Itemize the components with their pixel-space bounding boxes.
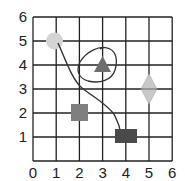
- x-tick-3: 3: [98, 164, 106, 181]
- x-axis-labels: 0 1 2 3 4 5 6: [29, 164, 177, 181]
- x-tick-6: 6: [168, 164, 176, 181]
- x-tick-5: 5: [145, 164, 153, 181]
- y-tick-1: 1: [19, 128, 27, 145]
- triangle-shape: [94, 56, 111, 72]
- y-tick-3: 3: [19, 80, 27, 97]
- x-tick-4: 4: [122, 164, 130, 181]
- y-axis-labels: 1 2 3 4 5 6: [19, 8, 27, 145]
- x-tick-2: 2: [75, 164, 83, 181]
- x-tick-1: 1: [52, 164, 60, 181]
- square-shape: [71, 104, 88, 121]
- x-tick-0: 0: [29, 164, 37, 181]
- y-tick-5: 5: [19, 32, 27, 49]
- y-tick-2: 2: [19, 104, 27, 121]
- y-tick-4: 4: [19, 56, 27, 73]
- rectangle-shape: [115, 129, 137, 143]
- grid-figure: 0 1 2 3 4 5 6 1 2 3 4 5 6: [0, 0, 185, 181]
- y-tick-6: 6: [19, 8, 27, 25]
